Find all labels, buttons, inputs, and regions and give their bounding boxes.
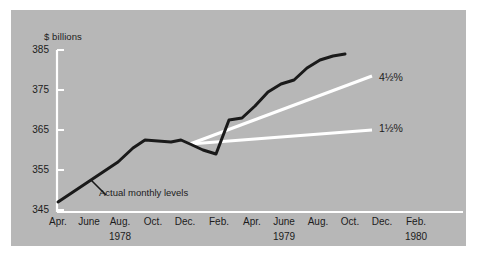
chart-figure: $ billions 385 375 365 355 345 Ac <box>0 0 477 259</box>
actual-monthly-levels-line <box>58 54 345 202</box>
actual-levels-label: Actual monthly levels <box>99 187 188 198</box>
lower-growth-cone-line <box>190 130 372 144</box>
year-label-1979: 1979 <box>262 231 306 242</box>
upper-growth-cone-line <box>190 76 372 144</box>
year-label-1980: 1980 <box>394 231 438 242</box>
upper-cone-label: 4½% <box>379 71 403 83</box>
chart-panel: $ billions 385 375 365 355 345 Ac <box>11 10 466 246</box>
year-label-1978: 1978 <box>98 231 142 242</box>
x-tick-label-11: Feb. <box>394 216 438 227</box>
lower-cone-label: 1½% <box>379 122 403 134</box>
